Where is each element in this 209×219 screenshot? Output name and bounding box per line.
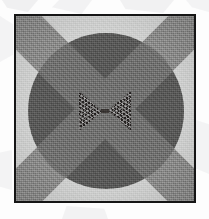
- bowtie-knot: [101, 109, 109, 113]
- noise-texture-icon: [79, 91, 102, 131]
- figure-frame: [14, 14, 196, 203]
- scan-artifact-icon: [0, 16, 13, 62]
- scan-artifact-icon: [2, 0, 38, 12]
- paper-background: [0, 0, 209, 219]
- scan-artifact-icon: [196, 120, 209, 174]
- scan-artifact-icon: [120, 0, 174, 13]
- scan-artifact-icon: [0, 150, 12, 190]
- bowtie-right-triangle: [108, 91, 131, 131]
- bowtie-shape: [79, 91, 131, 131]
- scan-artifact-icon: [52, 0, 92, 14]
- figure-canvas: [16, 16, 194, 201]
- noise-texture-icon: [108, 91, 131, 131]
- scan-artifact-icon: [186, 0, 209, 12]
- scan-artifact-icon: [62, 206, 108, 219]
- bowtie-left-triangle: [79, 91, 102, 131]
